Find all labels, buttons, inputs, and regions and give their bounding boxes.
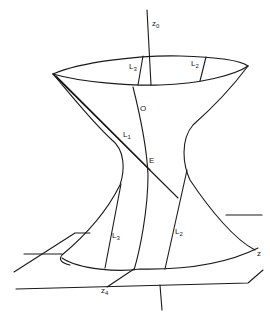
- label-e-main: E: [149, 156, 154, 165]
- l1-ruling-b: [56, 76, 150, 170]
- front-shelf-plane: [16, 270, 263, 289]
- l2-top-ruling: [200, 57, 206, 81]
- label-l3-top-sub: 3: [133, 66, 136, 72]
- label-l2-top-sub: 2: [195, 63, 198, 69]
- label-e: E: [149, 157, 154, 165]
- bottom-ellipse-curve: [62, 248, 258, 270]
- label-z: z: [257, 250, 261, 258]
- right-profile-curve: [184, 66, 255, 250]
- label-z4: z4: [101, 287, 108, 296]
- label-l3-bottom-sub: 3: [116, 235, 119, 241]
- o-meridian-curve: [133, 87, 148, 270]
- label-l3-top: L3: [129, 63, 137, 72]
- label-z0: z0: [152, 20, 159, 29]
- bottom-axis-line: [107, 269, 134, 287]
- label-l2-bottom-sub: 2: [179, 231, 182, 237]
- l2-bottom-ruling: [165, 170, 187, 269]
- diagram-canvas: z0 L3 L2 O L1 E L3 L2 z z4: [0, 0, 270, 315]
- label-o-main: O: [140, 104, 146, 113]
- label-l3-bottom: L3: [112, 232, 120, 241]
- l3-top-ruling: [138, 56, 143, 85]
- label-l2-top: L2: [191, 60, 199, 69]
- label-z0-sub: 0: [156, 23, 159, 29]
- label-l1: L1: [123, 131, 131, 140]
- label-z4-sub: 4: [105, 290, 108, 296]
- label-o: O: [140, 105, 146, 113]
- vertical-bottom-axis: [160, 285, 162, 310]
- hyperboloid-figure: [0, 0, 270, 315]
- label-l1-sub: 1: [127, 134, 130, 140]
- label-l2-bottom: L2: [175, 228, 183, 237]
- label-z-main: z: [257, 249, 261, 258]
- z0-axis-line: [147, 10, 151, 85]
- left-shelf-plane: [14, 233, 90, 272]
